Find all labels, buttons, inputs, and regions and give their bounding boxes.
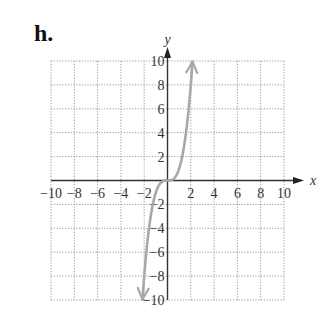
x-tick-label: 6: [234, 186, 241, 201]
y-tick-label: 8: [158, 78, 165, 93]
y-tick-label: 4: [158, 126, 165, 141]
y-tick-label: 10: [151, 54, 165, 69]
x-tick-label: −8: [67, 186, 82, 201]
y-axis-arrow-icon: [164, 47, 171, 58]
x-tick-label: 2: [187, 186, 194, 201]
x-axis-label: x: [309, 173, 317, 188]
y-axis-label: y: [163, 32, 172, 47]
x-tick-label: −10: [40, 186, 62, 201]
y-tick-label: −6: [150, 245, 165, 260]
y-tick-label: −4: [150, 221, 165, 236]
x-tick-label: 4: [211, 186, 218, 201]
cubic-graph: xy−10−8−6−4−2246810−10−8−6−4−2246810: [0, 0, 334, 332]
x-tick-label: 8: [257, 186, 264, 201]
x-tick-label: 10: [277, 186, 291, 201]
y-tick-label: 2: [158, 150, 165, 165]
x-tick-label: −4: [113, 186, 128, 201]
x-tick-label: −6: [90, 186, 105, 201]
y-tick-label: 6: [158, 102, 165, 117]
y-tick-label: −8: [150, 269, 165, 284]
x-axis-arrow-icon: [293, 177, 304, 184]
